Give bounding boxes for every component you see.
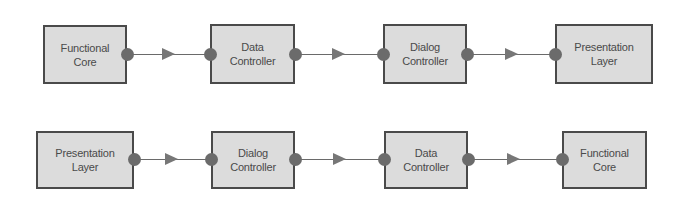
output-port-icon [128,153,141,166]
output-port-icon [461,48,474,61]
node-data-controller: Data Controller [384,131,468,189]
node-data-controller: Data Controller [210,24,295,84]
input-port-icon [205,153,218,166]
input-port-icon [378,153,391,166]
arrow-right-icon [507,153,520,165]
arrow-right-icon [332,48,345,60]
input-port-icon [204,48,217,61]
input-port-icon [556,153,569,166]
arrow-right-icon [165,153,178,165]
output-port-icon [289,153,302,166]
node-dialog-controller: Dialog Controller [383,24,467,84]
node-presentation-layer: Presentation Layer [555,24,653,84]
input-port-icon [549,48,562,61]
input-port-icon [377,48,390,61]
node-functional-core: Functional Core [562,131,647,189]
output-port-icon [289,48,302,61]
node-dialog-controller: Dialog Controller [211,131,295,189]
output-port-icon [462,153,475,166]
output-port-icon [121,48,134,61]
node-presentation-layer: Presentation Layer [36,131,134,189]
node-functional-core: Functional Core [43,25,127,84]
arrow-right-icon [162,48,175,60]
layer-flow-diagram: Functional Core Data Controller Dialog C… [0,0,685,207]
arrow-right-icon [333,153,346,165]
arrow-right-icon [505,48,518,60]
